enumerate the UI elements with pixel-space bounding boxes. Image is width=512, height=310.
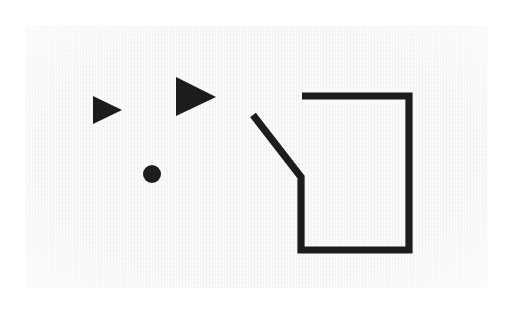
shape-diagram-svg	[0, 0, 512, 310]
notched-polygon-shape	[253, 96, 409, 250]
small-triangle-shape	[93, 96, 122, 124]
figure-canvas: Two solid right-pointing triangles, a so…	[0, 0, 512, 310]
dot-shape	[143, 165, 161, 183]
large-triangle-shape	[176, 77, 216, 116]
